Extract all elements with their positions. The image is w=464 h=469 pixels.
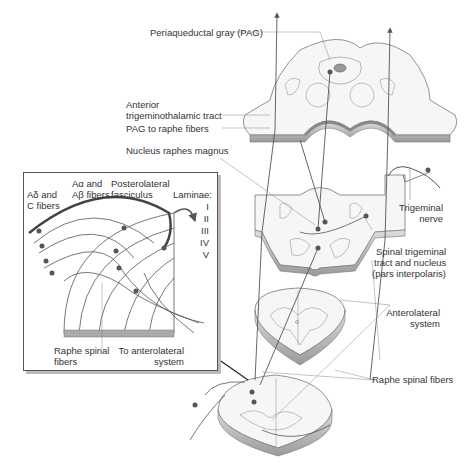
label-anterior-2: trigeminothalamic tract [126,110,222,121]
spinal-cord-lower [190,375,332,456]
label-laminae: Laminae: [164,189,212,200]
label-raphe-2: fibers [54,356,77,367]
label-lamina-ii: II [194,213,209,224]
spinal-cord-upper [255,288,345,365]
label-aalpha-2: Aβ fibers [72,189,110,200]
label-antero-2: system [380,318,440,329]
label-anterior-1: Anterior [126,99,159,110]
label-adelta-2: C fibers [27,200,60,211]
label-raphe-spinal: Raphe spinal fibers [372,374,453,385]
label-trig-nerve-1: Trigeminal [395,202,443,213]
label-lamina-iii: III [194,225,209,236]
label-antero-1: Anterolateral [380,307,440,318]
label-spinal-trig-2: tract and nucleus [374,257,446,268]
label-lamina-iv: IV [194,237,209,248]
label-trig-nerve-2: nerve [395,213,443,224]
label-pag-raphe: PAG to raphe fibers [126,123,209,134]
label-raphe-1: Raphe spinal [54,345,109,356]
dorsal-horn-inset: Aδ and C fibers Aα and Aβ fibers Postero… [23,172,218,371]
label-postero-1: Posterolateral [111,178,170,189]
label-lamina-v: V [194,249,209,260]
label-lamina-i: I [194,201,209,212]
midline-bar [64,330,174,337]
label-spinal-trig-3: (pars interpolaris) [372,268,446,279]
label-to-antero-2: system [114,356,184,367]
label-nrm: Nucleus raphes magnus [126,145,228,156]
label-aalpha-1: Aα and [72,178,102,189]
label-pag: Periaqueductal gray (PAG) [150,27,230,38]
label-spinal-trig-1: Spinal trigeminal [376,246,446,257]
label-to-antero-1: To anterolateral [114,345,184,356]
label-postero-2: fasciculus [111,189,153,200]
label-adelta-1: Aδ and [27,189,57,200]
